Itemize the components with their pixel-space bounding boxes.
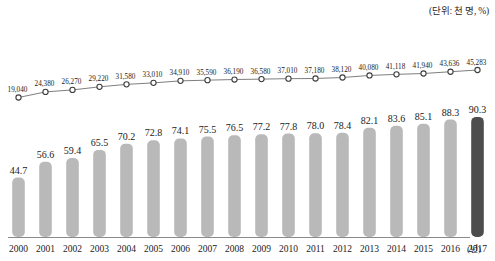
bar-value-label: 70.2 [118, 131, 136, 142]
bar-value-label: 82.1 [361, 115, 379, 126]
chart-container: (단위: 천 명, %) 44.756.659.465.570.272.874.… [0, 0, 495, 261]
bar [93, 150, 106, 237]
line-value-label: 19,040 [8, 86, 28, 94]
bar-value-label: 75.5 [199, 124, 217, 135]
x-tick-label-2008: 2008 [225, 244, 244, 254]
x-tick-label-2011: 2011 [306, 244, 325, 254]
trend-marker [151, 80, 156, 85]
trend-marker [97, 84, 102, 89]
bar [201, 137, 214, 237]
bar-highlighted [471, 117, 484, 237]
bar-value-label: 88.3 [442, 107, 460, 118]
bar-value-label: 65.5 [91, 137, 109, 148]
x-tick-label-2003: 2003 [90, 244, 109, 254]
trend-marker [178, 78, 183, 83]
x-tick-label-2012: 2012 [333, 244, 352, 254]
x-tick-label-2000: 2000 [9, 244, 28, 254]
trend-marker [448, 69, 453, 74]
x-tick-label-2001: 2001 [36, 244, 55, 254]
bar [444, 120, 457, 237]
line-value-label: 45,283 [467, 59, 487, 67]
trend-marker [367, 73, 372, 78]
chart-plot-area: 44.756.659.465.570.272.874.175.576.577.2… [0, 0, 495, 261]
x-tick-label-2002: 2002 [63, 244, 82, 254]
x-tick-label-2013: 2013 [360, 244, 379, 254]
line-value-label: 24,380 [35, 80, 55, 88]
bar-value-labels-group: 44.756.659.465.570.272.874.175.576.577.2… [10, 104, 487, 176]
trend-line [19, 70, 478, 98]
line-value-label: 35,590 [197, 69, 217, 77]
bar [363, 128, 376, 237]
trend-marker [43, 89, 48, 94]
bar-value-label: 83.6 [388, 113, 406, 124]
trend-marker [475, 67, 480, 72]
x-tick-label-2010: 2010 [279, 244, 298, 254]
x-tick-label-2005: 2005 [144, 244, 163, 254]
bar-value-label: 78.4 [334, 120, 352, 131]
trend-marker [340, 75, 345, 80]
bar-value-label: 85.1 [415, 111, 433, 122]
line-value-label: 37,180 [305, 67, 325, 75]
line-value-label: 38,120 [332, 66, 352, 74]
trend-marker [70, 87, 75, 92]
bar [336, 133, 349, 237]
bar [147, 140, 160, 237]
line-value-label: 36,580 [251, 68, 271, 76]
line-value-label: 26,270 [62, 78, 82, 86]
bar-series-group [12, 117, 484, 237]
bar [309, 133, 322, 237]
bar-value-label: 72.8 [145, 127, 163, 138]
x-tick-label-2009: 2009 [252, 244, 271, 254]
trend-marker [259, 77, 264, 82]
bar [255, 134, 268, 237]
bar-value-label: 74.1 [172, 125, 190, 136]
bar [417, 124, 430, 237]
bar-value-label: 78.0 [307, 120, 325, 131]
bar [66, 158, 79, 237]
bar-value-label: 90.3 [469, 104, 487, 115]
line-series-group [16, 67, 480, 100]
line-value-label: 43,636 [440, 60, 460, 68]
line-value-label: 37,010 [278, 67, 298, 75]
bar [12, 178, 25, 237]
line-value-label: 41,940 [413, 62, 433, 70]
line-value-label: 33,010 [143, 71, 163, 79]
bar-value-label: 56.6 [37, 149, 55, 160]
bar-value-label: 59.4 [64, 145, 82, 156]
line-value-label: 31,580 [116, 73, 136, 81]
bar-value-label: 77.2 [253, 121, 271, 132]
x-tick-label-2004: 2004 [117, 244, 136, 254]
line-value-label: 40,080 [359, 64, 379, 72]
trend-marker [286, 76, 291, 81]
line-value-label: 36,190 [224, 68, 244, 76]
trend-marker [232, 77, 237, 82]
trend-marker [421, 71, 426, 76]
bar [39, 162, 52, 237]
bar [174, 138, 187, 237]
line-value-label: 41,118 [386, 63, 406, 71]
bar-value-label: 76.5 [226, 122, 244, 133]
bar [228, 135, 241, 237]
x-tick-label-2006: 2006 [171, 244, 190, 254]
bar [282, 134, 295, 237]
bar-value-label: 77.8 [280, 121, 298, 132]
x-tick-label-2015: 2015 [414, 244, 433, 254]
x-tick-label-2016: 2016 [441, 244, 460, 254]
trend-marker [394, 72, 399, 77]
trend-marker [205, 78, 210, 83]
x-tick-label-2007: 2007 [198, 244, 217, 254]
x-axis-unit-label: (년) [467, 244, 481, 254]
line-value-label: 29,220 [89, 75, 109, 83]
trend-marker [16, 95, 21, 100]
x-tick-label-2014: 2014 [387, 244, 406, 254]
bar [390, 126, 403, 237]
trend-marker [124, 82, 129, 87]
trend-marker [313, 76, 318, 81]
bar [120, 144, 133, 237]
x-axis-tick-labels-group: 2000200120022003200420052006200720082009… [9, 244, 487, 254]
bar-value-label: 44.7 [10, 165, 28, 176]
line-value-label: 34,910 [170, 69, 190, 77]
